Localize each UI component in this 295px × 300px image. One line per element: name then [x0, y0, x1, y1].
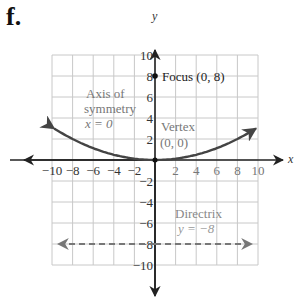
x-tick-label: −8 — [66, 163, 80, 178]
vertex-point — [153, 158, 158, 163]
y-axis-label: y — [151, 9, 158, 23]
y-tick-label: −4 — [139, 195, 153, 210]
y-tick-label: 10 — [140, 48, 153, 63]
y-tick-label: −2 — [139, 174, 153, 189]
x-axis-label: x — [287, 152, 294, 166]
focus-label: Focus (0, 8) — [162, 69, 224, 84]
y-tick-label: 8 — [147, 69, 154, 84]
vertex-label-2: (0, 0) — [160, 135, 188, 150]
parabola-graph: x y −10−8−6−4−2246810 108642−2−4−6−8−10 … — [0, 0, 295, 300]
vertex-label-1: Vertex — [161, 119, 195, 134]
y-tick-label: 2 — [147, 132, 154, 147]
x-tick-label: 10 — [252, 163, 265, 178]
x-tick-label: 8 — [234, 163, 241, 178]
focus-point — [152, 73, 158, 79]
x-tick-label: −10 — [42, 163, 62, 178]
x-tick-label: −4 — [107, 163, 121, 178]
directrix-label-2: y = −8 — [176, 221, 215, 236]
y-tick-label: −6 — [139, 216, 153, 231]
directrix-label-1: Directrix — [175, 206, 222, 221]
y-tick-label: −10 — [133, 258, 153, 273]
x-tick-labels: −10−8−6−4−2246810 — [42, 163, 265, 178]
axis-symmetry-label-1: Axis of — [86, 86, 125, 101]
x-tick-label: 2 — [172, 163, 179, 178]
x-tick-label: 4 — [193, 163, 200, 178]
x-tick-label: 6 — [214, 163, 221, 178]
axis-symmetry-label-2: symmetry — [84, 101, 136, 116]
y-tick-label: 4 — [147, 111, 154, 126]
axis-symmetry-label-3: x = 0 — [84, 116, 113, 131]
x-tick-label: −6 — [86, 163, 100, 178]
y-tick-label: 6 — [147, 90, 154, 105]
